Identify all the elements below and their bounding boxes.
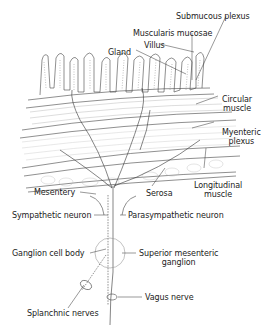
label-submucous-plexus: Submucous plexus — [176, 12, 250, 21]
submucosa-texture — [30, 98, 226, 124]
label-serosa: Serosa — [146, 189, 172, 198]
label-sympathetic-neuron: Sympathetic neuron — [12, 211, 91, 220]
label-muscularis-mucosae: Muscularis mucosae — [133, 29, 212, 38]
superior-mesenteric-ganglion-circle — [95, 238, 125, 268]
label-mesentery: Mesentery — [34, 188, 75, 197]
label-longitudinal-muscle-line2: muscle — [194, 190, 242, 199]
label-villus: Villus — [144, 41, 165, 50]
label-parasympathetic-neuron: Parasympathetic neuron — [128, 211, 224, 220]
intestinal-wall-diagram — [0, 0, 272, 333]
parasympathetic-neuron-line — [110, 186, 113, 325]
label-myenteric-plexus-line2: plexus — [222, 137, 261, 146]
label-vagus-nerve: Vagus nerve — [145, 293, 193, 302]
vagus-nerve-ellipse — [107, 294, 117, 300]
label-circular-muscle-line2: muscle — [222, 104, 252, 113]
label-circular-muscle-line1: Circular — [222, 95, 252, 104]
label-superior-mesenteric-ganglion-line1: Superior mesenteric — [139, 249, 218, 258]
label-myenteric-plexus: Myenteric plexus — [222, 128, 261, 146]
label-myenteric-plexus-line1: Myenteric — [222, 128, 261, 137]
label-superior-mesenteric-ganglion-line2: ganglion — [139, 258, 218, 267]
label-ganglion-cell-body: Ganglion cell body — [12, 249, 85, 258]
label-longitudinal-muscle-line1: Longitudinal — [194, 181, 242, 190]
label-circular-muscle: Circular muscle — [222, 95, 252, 113]
label-gland: Gland — [108, 48, 131, 57]
label-splanchnic-nerves: Splanchnic nerves — [27, 309, 98, 318]
label-superior-mesenteric-ganglion: Superior mesenteric ganglion — [139, 249, 218, 267]
label-longitudinal-muscle: Longitudinal muscle — [194, 181, 242, 199]
